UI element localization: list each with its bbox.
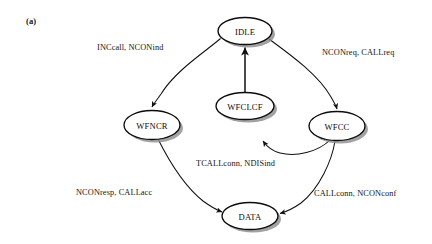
edge-wfncr-to-data (158, 139, 222, 212)
edge-label-tcallconn-ndisind: TCALLconn, NDISind (196, 159, 276, 168)
figure-container: (a) I (0, 0, 432, 244)
node-wfncr[interactable]: WFNCR (124, 111, 183, 143)
node-label-wfncr: WFNCR (136, 121, 167, 131)
node-label-wfclcf: WFCLCF (227, 102, 262, 112)
state-diagram: IDLE WFCLCF WFNCR WFCC (0, 0, 432, 244)
node-wfcc[interactable]: WFCC (309, 112, 368, 144)
edge-label-callconn-nconconf: CALLconn, NCONconf (314, 189, 396, 198)
edge-label-incall-nconind: INCcall, NCONind (97, 43, 164, 52)
node-label-idle: IDLE (235, 27, 255, 37)
node-label-data: DATA (239, 212, 262, 222)
node-idle[interactable]: IDLE (218, 18, 275, 48)
node-wfclcf[interactable]: WFCLCF (216, 93, 277, 123)
node-data[interactable]: DATA (222, 203, 281, 233)
edge-label-nconreq-callreq: NCONreq, CALLreq (322, 48, 394, 57)
edge-label-nconresp-callacc: NCONresp, CALLacc (76, 188, 152, 197)
edge-wfcc-to-wfclcf (263, 140, 330, 154)
node-label-wfcc: WFCC (325, 122, 350, 132)
